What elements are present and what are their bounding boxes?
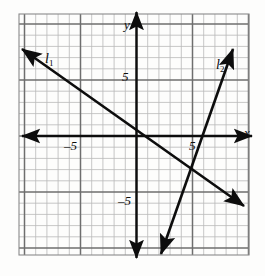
coordinate-plane-svg xyxy=(0,0,265,276)
line-label-l2: l2 xyxy=(216,58,224,72)
x-axis-label: x xyxy=(244,126,250,139)
y-axis-tick-label-negative-5: –5 xyxy=(118,194,131,207)
y-axis-tick-label-5: 5 xyxy=(122,70,129,83)
line-label-l2-subscript: 2 xyxy=(220,64,225,74)
figure-background xyxy=(0,0,265,276)
x-axis-tick-label-5: 5 xyxy=(189,139,196,152)
x-axis-tick-label-negative-5: –5 xyxy=(64,139,77,152)
line-label-l1-subscript: 1 xyxy=(49,58,54,68)
graph-figure: y x 5 –5 –5 5 l1 l2 xyxy=(0,0,265,276)
y-axis-label: y xyxy=(124,18,130,31)
line-label-l1: l1 xyxy=(45,52,53,66)
